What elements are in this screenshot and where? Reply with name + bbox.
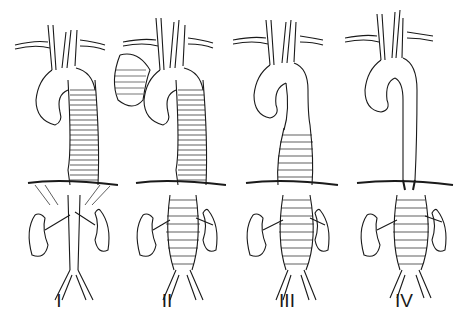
panel-type-iii: III (228, 0, 346, 327)
type-label: III (228, 290, 346, 312)
panel-type-iv: IV (345, 0, 463, 327)
panel-type-i: I (0, 0, 118, 327)
panel-type-ii: II (108, 0, 226, 327)
aorta-drawing-type-iii (228, 0, 346, 327)
aorta-drawing-type-iv (345, 0, 463, 327)
aorta-drawing-type-ii (108, 0, 226, 327)
type-label: I (0, 290, 118, 312)
type-label: IV (345, 290, 463, 312)
aorta-drawing-type-i (0, 0, 118, 327)
type-label: II (108, 290, 226, 312)
crawford-classification-figure: I (0, 0, 473, 327)
